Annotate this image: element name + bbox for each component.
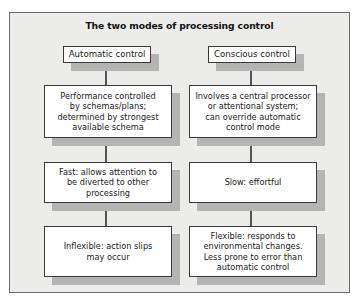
automatic-control-box-inflexible: Inflexible: action slips may occur — [44, 226, 172, 277]
conscious-control-box-central-processor: Involves a central processor or attentio… — [189, 85, 317, 138]
diagram-title: The two modes of processing control — [9, 20, 350, 31]
automatic-control-box-fast: Fast: allows attention to be diverted to… — [44, 162, 172, 203]
automatic-control-header: Automatic control — [63, 46, 151, 63]
conscious-control-header: Conscious control — [208, 46, 296, 63]
automatic-control-box-schemas: Performance controlled by schemas/plans;… — [44, 85, 172, 138]
conscious-control-box-slow: Slow: effortful — [189, 162, 317, 203]
conscious-control-box-flexible: Flexible: responds to environmental chan… — [189, 226, 317, 277]
